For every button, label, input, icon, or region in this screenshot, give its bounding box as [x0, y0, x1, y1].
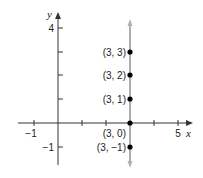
tick-label-y-4: 4	[48, 23, 54, 34]
vertical-line-up-arrow-icon	[128, 19, 133, 26]
point-3-2	[127, 72, 132, 77]
x-axis-arrow-icon	[186, 120, 193, 126]
vertical-line-down-arrow-icon	[128, 161, 133, 168]
y-ticks	[58, 28, 63, 147]
label-3-3: (3, 3)	[103, 47, 126, 58]
tick-label-y-neg1: −1	[43, 142, 55, 153]
coordinate-plane: (3, 3) (3, 2) (3, 1) (3, 0) (3, −1) −1 5…	[0, 0, 203, 178]
x-axis-label: x	[185, 127, 191, 139]
label-3-2: (3, 2)	[103, 70, 126, 81]
tick-label-x-neg1: −1	[25, 128, 37, 139]
label-3-0: (3, 0)	[103, 128, 126, 139]
y-axis-arrow-icon	[55, 12, 61, 19]
label-3-1: (3, 1)	[103, 94, 126, 105]
point-3-1	[127, 96, 132, 101]
tick-label-x-5: 5	[175, 128, 181, 139]
y-axis-label: y	[46, 8, 52, 20]
point-3-3	[127, 49, 132, 54]
label-3-neg1: (3, −1)	[97, 142, 126, 153]
point-3-0	[127, 120, 132, 125]
point-3-neg1	[127, 144, 132, 149]
